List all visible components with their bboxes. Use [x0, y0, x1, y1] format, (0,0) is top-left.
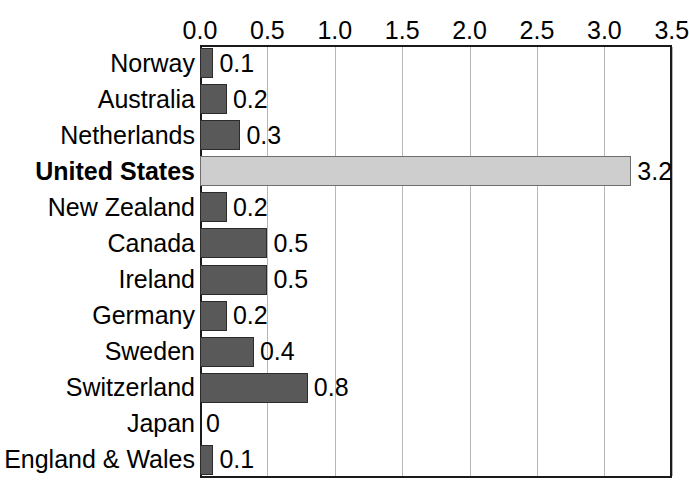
x-tick-label: 1.0	[317, 16, 352, 44]
bar-row	[0, 189, 687, 225]
bar-row	[0, 406, 687, 442]
x-tick-label: 3.0	[587, 16, 622, 44]
bar-row	[0, 442, 687, 478]
bar-row	[0, 225, 687, 261]
x-tick-label: 0.5	[250, 16, 285, 44]
bar-row	[0, 262, 687, 298]
bar-row	[0, 370, 687, 406]
bar-row	[0, 45, 687, 81]
x-tick-label: 1.5	[385, 16, 420, 44]
bar-row	[0, 153, 687, 189]
bar-row	[0, 117, 687, 153]
x-tick-label: 2.5	[520, 16, 555, 44]
bar-row	[0, 81, 687, 117]
bar-row	[0, 298, 687, 334]
x-axis-tick-labels: 0.00.51.01.52.02.53.03.5	[0, 16, 687, 44]
x-tick-label: 2.0	[452, 16, 487, 44]
bar-row	[0, 334, 687, 370]
x-tick-label: 3.5	[654, 16, 689, 44]
x-tick-label: 0.0	[183, 16, 218, 44]
bar-rows: Norway0.1Australia0.2Netherlands0.3Unite…	[0, 45, 687, 478]
